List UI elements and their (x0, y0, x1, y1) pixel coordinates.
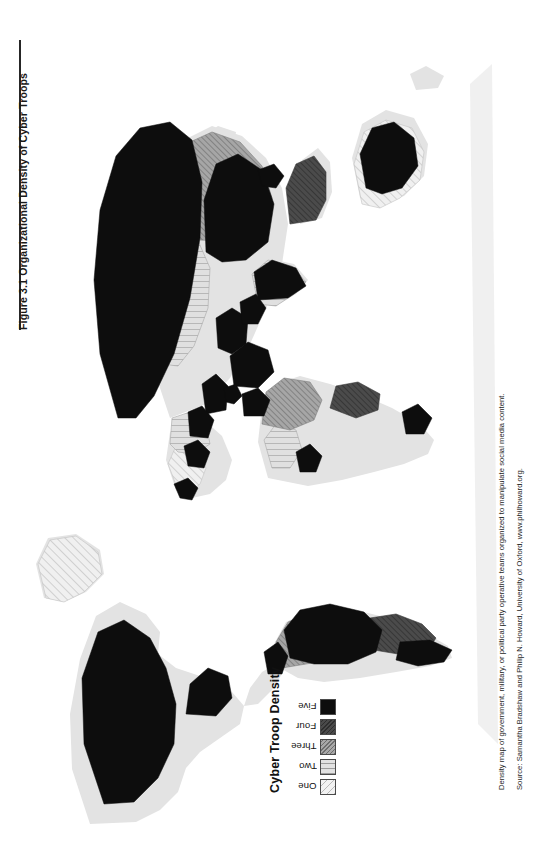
legend-items: One Two Three Four Five (291, 667, 336, 795)
legend-swatch-five (320, 699, 336, 715)
legend-swatch-one (320, 779, 336, 795)
legend-label-two: Two (299, 762, 317, 773)
legend-item-four[interactable]: Four (296, 719, 335, 735)
legend-item-five[interactable]: Five (298, 699, 336, 715)
legend-label-one: One (298, 782, 316, 793)
legend-swatch-four (320, 719, 336, 735)
legend-item-one[interactable]: One (298, 779, 335, 795)
figure-description: Density map of government, military, or … (497, 393, 506, 790)
legend-swatch-three (320, 739, 336, 755)
legend-item-two[interactable]: Two (299, 759, 336, 775)
figure-page: Figure 3.1 Organizational Density of Cyb… (0, 0, 557, 864)
legend-title: Cyber Troop Density (268, 667, 282, 793)
legend-label-three: Three (291, 742, 317, 753)
legend-label-five: Five (298, 702, 317, 713)
figure-source: Source: Samantha Bradshaw and Philip N. … (515, 468, 524, 790)
legend-item-three[interactable]: Three (291, 739, 336, 755)
figure-title: Figure 3.1 Organizational Density of Cyb… (17, 73, 29, 330)
legend-label-four: Four (296, 722, 316, 733)
map-legend: Cyber Troop Density One Two Three Four F… (268, 667, 336, 795)
legend-swatch-two (320, 759, 336, 775)
